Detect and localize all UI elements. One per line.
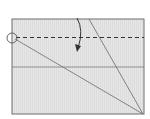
paper-sheet — [12, 19, 144, 114]
origami-diagram — [0, 0, 150, 119]
